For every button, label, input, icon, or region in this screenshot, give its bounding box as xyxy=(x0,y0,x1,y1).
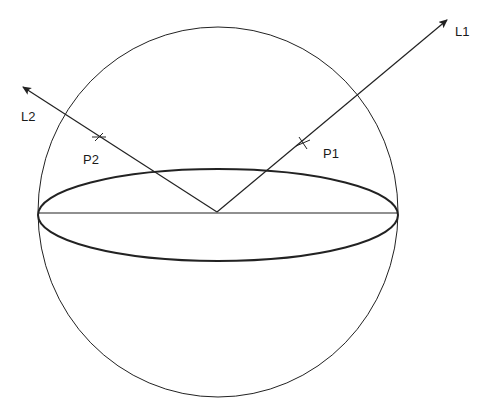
sphere-outline xyxy=(38,27,398,397)
line-l2 xyxy=(23,87,217,212)
point-p1-marker xyxy=(296,137,310,149)
equator-ellipse xyxy=(38,169,398,261)
label-p1: P1 xyxy=(323,147,339,160)
sphere-diagram xyxy=(0,0,486,409)
label-l1: L1 xyxy=(455,25,469,38)
line-l1 xyxy=(217,20,447,212)
label-l2: L2 xyxy=(21,110,35,123)
label-p2: P2 xyxy=(83,153,99,166)
